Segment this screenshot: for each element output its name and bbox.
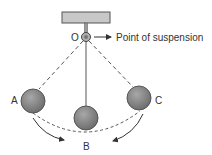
pivot-callout-label: Point of suspension (116, 32, 203, 43)
label-a: A (11, 95, 18, 106)
support-rod (85, 23, 88, 33)
pivot-label: O (71, 32, 79, 43)
bob-c (127, 86, 151, 110)
string-to-a (39, 41, 83, 89)
motion-arrow-left (33, 118, 64, 140)
motion-arrow-right (113, 114, 143, 141)
label-c: C (155, 95, 162, 106)
ceiling-support (62, 12, 110, 23)
pendulum-diagram: O Point of suspension A B C (0, 0, 212, 155)
bob-a (21, 89, 45, 113)
pivot-point (82, 33, 91, 42)
label-b: B (83, 141, 90, 152)
bob-b (74, 106, 98, 130)
string-to-c (89, 41, 133, 87)
